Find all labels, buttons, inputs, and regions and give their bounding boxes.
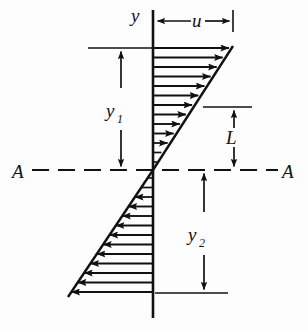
lower-profile-envelope <box>68 170 153 297</box>
lower-velocity-profile <box>68 170 153 297</box>
section-label-left: A <box>10 161 24 182</box>
section-label-right: A <box>280 161 294 182</box>
dimension-u: u <box>153 10 233 32</box>
dimension-L: L <box>203 107 252 167</box>
velocity-profile-figure: A A y <box>0 0 308 331</box>
L-label: L <box>225 127 237 148</box>
y-axis-group: y <box>129 5 153 318</box>
y2-label: y <box>186 224 197 245</box>
upper-arrow-set <box>153 48 229 162</box>
dimension-y2: y 2 <box>155 174 228 294</box>
upper-profile-envelope <box>153 46 233 170</box>
dimension-y1: y 1 <box>88 48 152 167</box>
y-axis-label: y <box>129 5 140 26</box>
upper-velocity-profile <box>153 46 233 170</box>
u-label: u <box>192 10 202 31</box>
y1-label: y <box>104 100 115 121</box>
diagram-canvas: A A y <box>0 0 308 331</box>
y2-label-subscript: 2 <box>199 236 205 250</box>
y1-label-subscript: 1 <box>117 112 123 126</box>
